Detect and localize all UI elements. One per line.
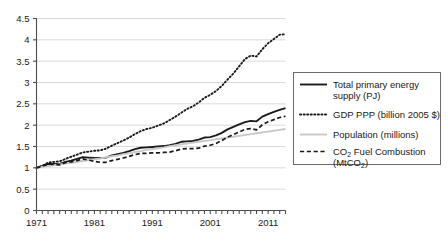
- x-tick-label: 1981: [84, 217, 105, 228]
- y-tick-label: 1.5: [16, 141, 29, 152]
- y-tick-label: 3.5: [16, 56, 29, 67]
- legend-label-line1: Total primary energy: [333, 79, 419, 90]
- x-axis-tick-labels: 19711981199120012011: [26, 217, 278, 228]
- y-tick-label: 1: [24, 162, 29, 173]
- y-tick-label: 2: [24, 120, 29, 131]
- y-tick-label: 4.5: [16, 13, 29, 24]
- chart-container: 00.511.522.533.544.5 1971198119912001201…: [0, 0, 448, 243]
- x-axis: [37, 211, 286, 215]
- legend-label-line2: supply (PJ): [333, 90, 381, 101]
- y-tick-label: 0.5: [16, 184, 29, 195]
- x-tick-label: 2001: [200, 217, 221, 228]
- x-tick-label: 2011: [258, 217, 278, 228]
- y-tick-label: 0: [24, 205, 29, 216]
- line-chart: 00.511.522.533.544.5 1971198119912001201…: [0, 0, 448, 243]
- y-axis: [33, 18, 37, 211]
- x-tick-label: 1991: [142, 217, 163, 228]
- series-line-population: [37, 129, 286, 168]
- y-tick-label: 3: [24, 77, 29, 88]
- legend: Total primary energysupply (PJ)GDP PPP (…: [294, 73, 441, 169]
- y-tick-label: 4: [24, 34, 29, 45]
- x-tick-label: 1971: [26, 217, 47, 228]
- legend-label-line1: GDP PPP (billion 2005 $): [333, 109, 440, 120]
- series-line-tpes: [37, 108, 286, 168]
- legend-label-line1: Population (millions): [333, 129, 419, 140]
- data-series-group: [37, 34, 286, 168]
- y-tick-label: 2.5: [16, 98, 29, 109]
- y-axis-tick-labels: 00.511.522.533.544.5: [16, 13, 29, 216]
- grid-lines: [37, 19, 286, 190]
